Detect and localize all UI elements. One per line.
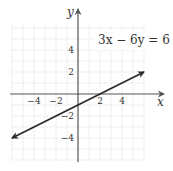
chart: −4−22442−2−4 3x − 6y = 6 x y — [0, 0, 173, 171]
y-tick-label: 4 — [68, 45, 74, 55]
annotation: 3x − 6y = 6 — [94, 30, 170, 50]
y-tick-label: −4 — [61, 133, 75, 143]
x-tick-label: 4 — [119, 96, 125, 106]
x-tick-label: −2 — [49, 96, 62, 106]
y-tick-label: 2 — [68, 67, 74, 77]
x-tick-label: −4 — [27, 96, 41, 106]
y-axis-label: y — [66, 5, 74, 19]
x-tick-label: 2 — [97, 96, 103, 106]
equation-label: 3x − 6y = 6 — [98, 33, 170, 47]
x-axis-label: x — [157, 95, 164, 109]
